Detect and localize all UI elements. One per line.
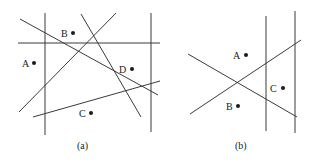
line-a-diagonal-3	[81, 14, 141, 117]
label-b-A: A	[233, 50, 241, 61]
panel-b: A B C (b)	[188, 11, 301, 152]
line-b-diagonal-up	[190, 40, 301, 114]
panel-a: A B C D (a)	[18, 13, 160, 152]
diagram-svg: A B C D (a) A B C (b)	[0, 0, 315, 162]
label-a-C: C	[79, 108, 86, 119]
label-b-B: B	[226, 101, 233, 112]
caption-a: (a)	[77, 140, 88, 152]
point-b-A	[244, 53, 248, 57]
point-b-C	[281, 86, 285, 90]
line-a-diagonal-4	[33, 81, 160, 117]
point-a-A	[32, 61, 36, 65]
line-b-diagonal-down	[188, 54, 297, 117]
label-a-B: B	[61, 28, 68, 39]
point-a-C	[89, 111, 93, 115]
label-a-A: A	[22, 58, 30, 69]
caption-b: (b)	[235, 140, 247, 152]
point-a-B	[71, 31, 75, 35]
point-a-D	[130, 67, 134, 71]
line-a-diagonal-1	[20, 19, 158, 95]
figure: A B C D (a) A B C (b)	[0, 0, 315, 162]
label-a-D: D	[119, 64, 126, 75]
label-b-C: C	[270, 83, 277, 94]
point-b-B	[236, 104, 240, 108]
